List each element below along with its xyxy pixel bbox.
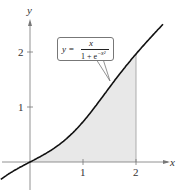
y-axis-label: y [27, 5, 32, 16]
x-tick-label-2: 2 [133, 167, 139, 178]
callout-pointer [96, 59, 110, 81]
y-tick-label-2: 2 [18, 47, 24, 58]
x-axis-label: x [170, 157, 175, 168]
formula-numerator: x [89, 38, 93, 48]
x-axis-arrow-icon [163, 160, 170, 164]
formula-lhs: y = [62, 44, 74, 54]
shaded-area [30, 54, 136, 162]
y-axis-arrow-icon [28, 19, 32, 26]
x-tick-label-1: 1 [80, 167, 86, 178]
y-tick-label-1: 1 [18, 102, 24, 113]
formula-denominator: 1 + e−x² [81, 50, 106, 61]
formula-callout: y = x 1 + e−x² [57, 37, 114, 61]
function-plot [0, 0, 177, 194]
